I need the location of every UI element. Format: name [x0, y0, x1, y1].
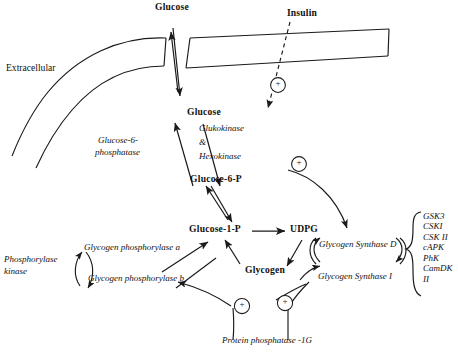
kinase-list: GSK3 CSKI CSK II cAPK PhK CamDK II: [423, 211, 453, 284]
diagram-canvas: Glucose Extracellular Insulin Glucose Gl…: [0, 0, 458, 357]
label-udpg: UDPG: [290, 224, 318, 234]
kinase-item-cskii: CSK II: [423, 232, 453, 242]
label-ampersand: &: [199, 138, 206, 147]
label-protein-phosphatase: Protein phosphatase -1G: [222, 336, 312, 345]
label-glucokinase: Glukokinase: [199, 124, 244, 133]
kinase-item-cski: CSKI: [423, 221, 453, 231]
label-glucose-extracellular: Glucose: [155, 2, 189, 12]
cell-membrane-right: [186, 29, 389, 68]
g6p-g1p-arrows: [206, 186, 232, 222]
phosphatase-right-curve: [276, 282, 309, 340]
label-phosphorylase-kinase-line1: Phosphorylase: [4, 255, 58, 264]
kinase-item-gsk3: GSK3: [423, 211, 453, 221]
label-glucose-6-p: Glucose-6-P: [190, 174, 242, 184]
label-insulin: Insulin: [287, 8, 317, 18]
label-glycogen-synthase-d: Glycogen Synthase D: [319, 240, 396, 249]
kinase-item-ii: II: [423, 274, 453, 284]
plus-sign-insulin: +: [275, 79, 280, 88]
synthase-i-to-glycogen: [300, 266, 320, 280]
plus-sign-phosphatase-left: +: [239, 300, 244, 309]
label-glycogen: Glycogen: [245, 265, 285, 275]
kinase-item-camdk: CamDK: [423, 263, 453, 273]
cell-membrane-left: [12, 38, 166, 168]
synthase-interconversion-right: [396, 238, 406, 264]
udpg-glycogen-arrow: [287, 240, 302, 266]
label-glycogen-phosphorylase-b: Glycogen phosphorylase b: [88, 274, 184, 283]
label-hexokinase: Hexokinase: [199, 152, 241, 161]
phosphatase-left-curve: [178, 282, 234, 340]
kinase-item-phk: PhK: [423, 253, 453, 263]
plus-sign-synthase: +: [296, 158, 301, 167]
insulin-signal-arrow: [268, 22, 290, 108]
label-extracellular: Extracellular: [6, 63, 56, 73]
plus-sign-phosphatase-right: +: [282, 297, 287, 306]
glucose-transport-arrows: [171, 28, 180, 96]
label-phosphorylase-kinase-line2: kinase: [4, 267, 27, 276]
label-glucose-intracellular: Glucose: [187, 107, 221, 117]
label-glycogen-phosphorylase-a: Glycogen phosphorylase a: [84, 243, 180, 252]
glycogen-g1p-arrow: [225, 240, 240, 264]
label-glucose-6-phosphatase-line1: Glucose-6-: [98, 136, 138, 145]
label-glycogen-synthase-i: Glycogen Synthase I: [318, 272, 392, 281]
label-glucose-1-p: Glucose-1-P: [189, 224, 241, 234]
kinase-list-brace: [406, 212, 421, 296]
insulin-to-synthase-curve: [288, 170, 347, 228]
label-glucose-6-phosphatase-line2: phosphatase: [95, 148, 140, 157]
kinase-item-capk: cAPK: [423, 242, 453, 252]
